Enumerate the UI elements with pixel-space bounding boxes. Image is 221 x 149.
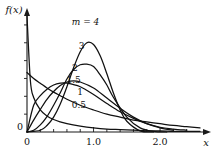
x-axis-arrow-icon	[203, 129, 211, 135]
y-origin-label: 0	[17, 121, 23, 132]
curve-label-m-1.5: 1.5	[66, 75, 81, 85]
x-tick-label: 1.0	[86, 136, 101, 147]
pdf-curves-group	[27, 16, 200, 132]
y-axis-label: f(x)	[4, 4, 22, 15]
chart-canvas: 01.02.0 0 x f(x) 0.511.523m = 4	[0, 0, 221, 149]
pdf-curve-m-2	[27, 81, 173, 132]
curve-label-m-2: 2	[72, 63, 78, 73]
x-tick-label: 0	[24, 136, 30, 147]
pdf-curve-m-0.5	[27, 16, 200, 131]
x-axis-label: x	[203, 137, 209, 148]
x-axis-tick-labels: 01.02.0	[24, 136, 168, 147]
weibull-pdf-figure: 01.02.0 0 x f(x) 0.511.523m = 4	[0, 0, 221, 149]
y-axis-arrow-icon	[24, 8, 30, 16]
curve-label-m-4: m = 4	[72, 17, 100, 27]
x-tick-label: 2.0	[153, 136, 168, 147]
curve-label-m-3: 3	[79, 41, 85, 51]
curve-label-m-0.5: 0.5	[72, 100, 87, 110]
curve-label-m-1: 1	[77, 87, 83, 97]
